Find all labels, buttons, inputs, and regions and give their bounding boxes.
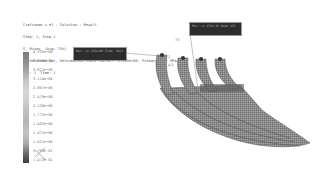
callout-min: Min: +1.472e-01 Node 415 [189, 22, 242, 36]
model-finger [156, 55, 174, 95]
dimension-label: 2 [168, 55, 170, 59]
angle-label: 75 [175, 38, 179, 42]
callout-leader-line [125, 53, 160, 56]
fem-model-viewport[interactable] [0, 0, 330, 181]
callout-max: Max: +4.335e+00 Elem: 1023 [73, 47, 127, 61]
dimension-label: 4.5 [168, 63, 174, 67]
